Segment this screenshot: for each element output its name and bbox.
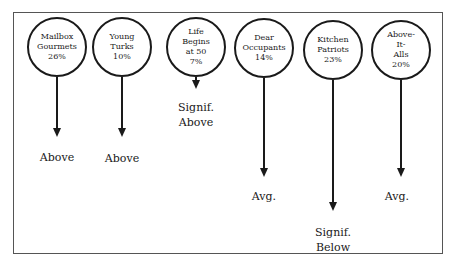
arrow-down-icon xyxy=(118,128,126,137)
arrow-line xyxy=(263,78,265,170)
segment-share: 14% xyxy=(255,53,273,63)
segment-label: Life xyxy=(188,27,204,37)
arrow-down-icon xyxy=(192,80,200,89)
segment-outcome: Avg. xyxy=(224,189,304,204)
segment-share: 23% xyxy=(324,55,342,65)
segment-label: Occupants xyxy=(242,43,285,53)
segment-share: 7% xyxy=(190,57,203,67)
segment-label: Begins xyxy=(182,37,210,47)
segment-outcome: Signif. Below xyxy=(293,225,373,255)
segment-label: Alls xyxy=(394,50,409,60)
arrow-line xyxy=(121,77,123,129)
segment-share: 26% xyxy=(48,52,66,62)
arrow-line xyxy=(400,80,402,170)
arrow-down-icon xyxy=(260,168,268,177)
segment-circle: Mailbox Gourmets 26% xyxy=(27,17,87,77)
arrow-down-icon xyxy=(53,128,61,137)
segment-label: at 50 xyxy=(186,47,207,57)
segment-circle: Life Begins at 50 7% xyxy=(166,17,226,77)
segment-outcome: Signif. Above xyxy=(156,100,236,130)
segment-circle: Above- It- Alls 20% xyxy=(371,20,431,80)
segment-circle: Dear Occupants 14% xyxy=(234,18,294,78)
segment-label: Dear xyxy=(254,33,274,43)
arrow-down-icon xyxy=(329,202,337,211)
segment-label: Gourmets xyxy=(37,42,77,52)
arrow-line xyxy=(332,80,334,204)
segment-label: It- xyxy=(396,40,405,50)
arrow-line xyxy=(56,77,58,129)
segment-share: 10% xyxy=(113,52,131,62)
segment-label: Above- xyxy=(387,30,415,40)
segment-label: Mailbox xyxy=(41,32,74,42)
segment-label: Patriots xyxy=(317,45,349,55)
segment-share: 20% xyxy=(392,60,410,70)
segment-outcome: Above xyxy=(82,151,162,166)
segment-label: Turks xyxy=(110,42,133,52)
segment-label: Young xyxy=(110,32,135,42)
segment-circle: Young Turks 10% xyxy=(92,17,152,77)
segment-circle: Kitchen Patriots 23% xyxy=(303,20,363,80)
arrow-down-icon xyxy=(397,168,405,177)
segment-label: Kitchen xyxy=(317,35,348,45)
segment-outcome: Avg. xyxy=(357,189,437,204)
